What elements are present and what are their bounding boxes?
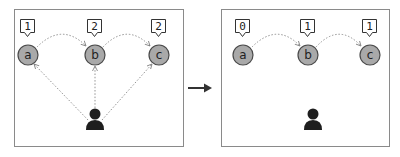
count-value: 0 (239, 20, 246, 33)
node-label: c (367, 48, 374, 62)
count-value: 2 (155, 20, 162, 33)
diagram-canvas: 1 a 2 b 2 c (0, 0, 400, 157)
node-label: b (91, 48, 99, 62)
right-arrow-icon (188, 84, 212, 93)
node-label: a (239, 48, 246, 62)
count-value: 2 (91, 20, 98, 33)
node-label: b (304, 48, 312, 62)
before-panel: 1 a 2 b 2 c (15, 10, 184, 147)
node-label: a (24, 48, 31, 62)
node-label: c (156, 48, 163, 62)
after-panel: 0 a 1 b 1 c (222, 10, 390, 147)
count-value: 1 (366, 20, 373, 33)
count-value: 1 (304, 20, 311, 33)
count-value: 1 (24, 20, 31, 33)
